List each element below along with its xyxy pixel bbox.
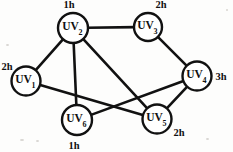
graph-diagram-canvas: UV1UV2UV3UV4UV5UV6 2h1h2h3h2h1h xyxy=(0,0,233,152)
node-subscript: 4 xyxy=(203,76,207,85)
graph-edge xyxy=(87,27,136,28)
node-weight-label-uv5: 2h xyxy=(173,127,184,138)
node-weight-label-uv2: 1h xyxy=(63,0,74,10)
edges-layer xyxy=(35,27,189,115)
node-weight-label-uv3: 2h xyxy=(155,0,166,10)
scan-speck xyxy=(20,139,24,141)
node-subscript: 3 xyxy=(154,27,158,36)
graph-node-uv2[interactable]: UV2 xyxy=(58,13,88,43)
scan-speck xyxy=(206,138,209,140)
node-label: UV xyxy=(62,20,79,32)
scan-speck xyxy=(226,9,228,11)
nodes-layer: UV1UV2UV3UV4UV5UV6 xyxy=(12,13,212,135)
node-weight-label-uv4: 3h xyxy=(215,71,226,82)
node-label: UV xyxy=(146,111,163,123)
graph-node-uv5[interactable]: UV5 xyxy=(143,105,172,134)
graph-edge xyxy=(157,36,188,67)
node-label: UV xyxy=(15,73,32,85)
node-weight-label-uv6: 1h xyxy=(68,140,79,151)
node-weight-label-uv1: 2h xyxy=(1,61,12,72)
scan-speck xyxy=(36,140,39,142)
node-subscript: 1 xyxy=(32,81,36,90)
graph-svg: UV1UV2UV3UV4UV5UV6 2h1h2h3h2h1h xyxy=(0,0,233,152)
graph-node-uv3[interactable]: UV3 xyxy=(134,13,162,41)
graph-edge xyxy=(90,80,185,115)
graph-edge xyxy=(35,38,64,71)
graph-node-uv4[interactable]: UV4 xyxy=(183,62,212,91)
node-label: UV xyxy=(137,19,154,31)
graph-edge xyxy=(166,86,188,110)
node-subscript: 5 xyxy=(163,119,167,128)
node-subscript: 6 xyxy=(83,120,87,129)
node-label: UV xyxy=(186,68,203,80)
scan-speck xyxy=(6,44,9,46)
graph-node-uv6[interactable]: UV6 xyxy=(62,105,92,135)
node-subscript: 2 xyxy=(79,28,83,37)
graph-node-uv1[interactable]: UV1 xyxy=(12,67,41,96)
node-label: UV xyxy=(66,112,83,124)
